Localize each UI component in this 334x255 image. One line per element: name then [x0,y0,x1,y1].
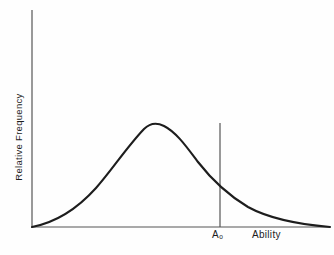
threshold-tick-label: Ao [212,229,223,240]
distribution-plot [0,0,334,255]
threshold-tick-label-main: A [212,229,219,240]
x-axis-label: Ability [252,229,281,240]
y-axis-label-text: Relative Frequency [13,93,24,180]
y-axis-label: Relative Frequency [13,50,24,137]
distribution-curve [32,124,330,227]
threshold-tick-label-sub: o [219,233,223,240]
chart-figure: Relative Frequency Ao Ability [0,0,334,255]
